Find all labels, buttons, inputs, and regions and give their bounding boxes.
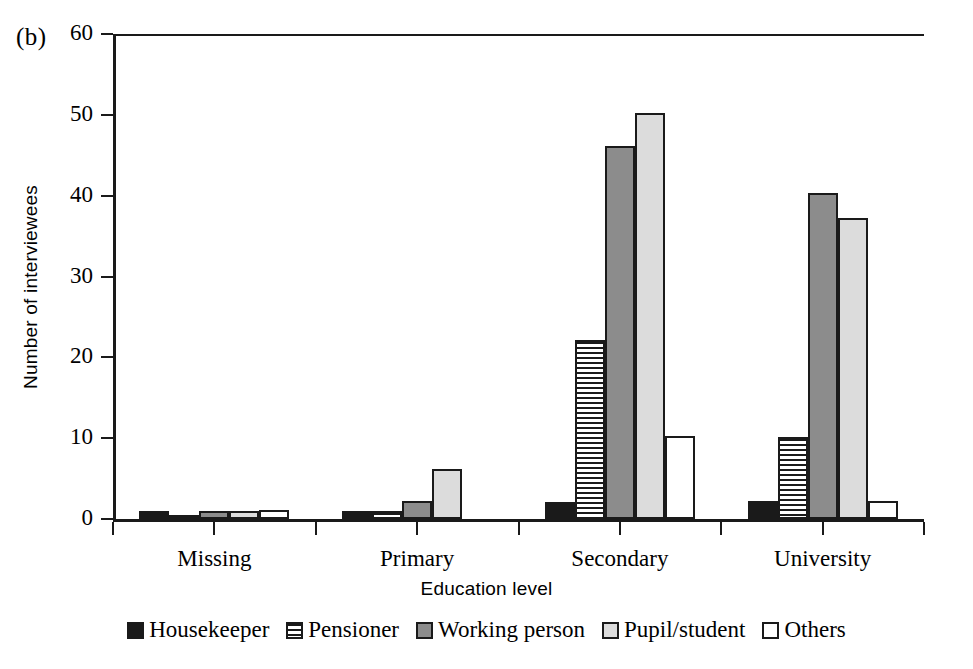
- y-tick: 40: [101, 195, 113, 197]
- y-tick: 20: [101, 356, 113, 358]
- bar: [169, 515, 199, 519]
- y-tick-label: 60: [70, 20, 93, 46]
- legend-swatch-icon: [127, 622, 144, 639]
- plot-area: 0102030405060 MissingPrimarySecondaryUni…: [113, 34, 924, 519]
- x-category-label: Secondary: [571, 546, 668, 572]
- bar: [838, 218, 868, 519]
- y-tick-label: 10: [70, 425, 93, 451]
- bar: [342, 511, 372, 519]
- y-tick-label: 50: [70, 101, 93, 127]
- legend-label: Pupil/student: [624, 617, 745, 643]
- x-tick: [822, 522, 824, 535]
- legend-swatch-icon: [286, 622, 303, 639]
- y-tick: 60: [101, 33, 113, 35]
- bar: [259, 510, 289, 519]
- bar: [372, 511, 402, 519]
- legend-swatch-icon: [762, 622, 779, 639]
- x-tick: [619, 522, 621, 535]
- legend-item[interactable]: Working person: [416, 617, 585, 643]
- x-axis-title: Education level: [0, 578, 973, 600]
- y-tick: 10: [101, 437, 113, 439]
- legend-label: Pensioner: [308, 617, 399, 643]
- x-tick: [518, 522, 520, 535]
- y-tick-label: 30: [70, 263, 93, 289]
- bar: [665, 436, 695, 519]
- y-tick: 50: [101, 114, 113, 116]
- bar: [868, 501, 898, 519]
- bar: [229, 511, 259, 519]
- y-tick: 0: [101, 518, 113, 520]
- x-category-label: Primary: [380, 546, 454, 572]
- x-tick: [315, 522, 317, 535]
- axis-top-cap: [113, 34, 924, 36]
- bar: [808, 193, 838, 519]
- y-axis-line: [113, 34, 116, 519]
- x-category-label: Missing: [177, 546, 251, 572]
- bar: [139, 511, 169, 519]
- bar: [778, 437, 808, 519]
- legend-swatch-icon: [602, 622, 619, 639]
- legend: HousekeeperPensionerWorking personPupil/…: [0, 617, 973, 643]
- bar: [748, 501, 778, 519]
- y-tick-label: 0: [82, 505, 94, 531]
- bar: [402, 501, 432, 519]
- y-tick-label: 20: [70, 344, 93, 370]
- legend-label: Others: [784, 617, 845, 643]
- bar: [575, 340, 605, 519]
- x-tick: [416, 522, 418, 535]
- bar: [635, 113, 665, 519]
- legend-label: Working person: [438, 617, 585, 643]
- x-tick: [720, 522, 722, 535]
- bar: [545, 502, 575, 519]
- x-tick: [923, 522, 925, 535]
- legend-item[interactable]: Pupil/student: [602, 617, 745, 643]
- x-category-label: University: [774, 546, 871, 572]
- bar: [199, 511, 229, 519]
- figure-panel-b: (b) Number of interviewees Education lev…: [0, 0, 973, 669]
- y-tick-label: 40: [70, 182, 93, 208]
- panel-label: (b): [16, 24, 47, 49]
- legend-swatch-icon: [416, 622, 433, 639]
- legend-item[interactable]: Others: [762, 617, 845, 643]
- legend-item[interactable]: Housekeeper: [127, 617, 269, 643]
- legend-item[interactable]: Pensioner: [286, 617, 399, 643]
- y-tick: 30: [101, 276, 113, 278]
- legend-label: Housekeeper: [149, 617, 269, 643]
- y-axis-title: Number of interviewees: [20, 117, 42, 457]
- x-tick: [112, 522, 114, 535]
- x-tick: [213, 522, 215, 535]
- bar: [432, 469, 462, 519]
- bar: [605, 146, 635, 519]
